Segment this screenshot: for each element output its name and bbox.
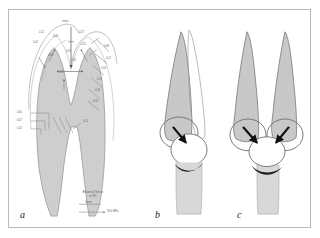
figure-root: stress 0.22 0.18 0.31 0.42 0.27 0.15 0.0… — [0, 0, 320, 238]
tick-label-5: 0.23 — [95, 90, 100, 93]
label-value-4: 0.42 — [33, 42, 38, 45]
leader-label-1: 0.05 — [17, 112, 22, 115]
leader-label-2: 0.07 — [17, 120, 22, 123]
panel-c: c — [223, 10, 312, 227]
label-stress: stress — [62, 21, 69, 24]
root-shaft-b — [176, 163, 202, 215]
label-value-7: 0.09 — [48, 55, 53, 58]
scale-bar-upper-label: 1mm — [85, 201, 91, 204]
tick-label-6: 0.26 — [93, 101, 98, 104]
panel-b-letter: b — [155, 210, 160, 220]
label-value-9: 0.11 — [59, 72, 64, 75]
scale-bar-lower-label: 300 MPa — [107, 210, 119, 213]
label-value-1: 0.22 — [39, 32, 44, 35]
figure-frame: stress 0.22 0.18 0.31 0.42 0.27 0.15 0.0… — [8, 9, 311, 228]
label-value-6: 0.15 — [81, 44, 86, 47]
panel-a-letter: a — [20, 210, 25, 220]
panel-a: stress 0.22 0.18 0.31 0.42 0.27 0.15 0.0… — [9, 10, 143, 227]
tick-label-2: 0.12 — [106, 58, 111, 61]
contact-circle-lower-b — [171, 134, 207, 166]
panel-c-drawing — [223, 10, 312, 227]
vector-cusp-left-outer — [39, 58, 45, 68]
tick-label-1: 0.08 — [104, 46, 109, 49]
panel-a-caption: Bilateral Stress in PD — [69, 190, 117, 199]
leader-label-3: 0.10 — [17, 128, 22, 131]
caption-line-2: in PD — [69, 194, 117, 198]
panel-b-drawing — [143, 10, 223, 227]
tick-label-4: 0.19 — [97, 79, 102, 82]
label-value-2: 0.18 — [53, 36, 58, 39]
panel-b: b — [143, 10, 223, 227]
label-value-8: 0.24 — [71, 60, 76, 63]
label-value-3: 0.31 — [66, 51, 71, 54]
label-value-5: 0.27 — [79, 32, 84, 35]
tick-label-3: 0.16 — [101, 68, 106, 71]
panel-c-letter: c — [237, 210, 241, 220]
leader-label-4: 0.14 — [83, 121, 88, 124]
